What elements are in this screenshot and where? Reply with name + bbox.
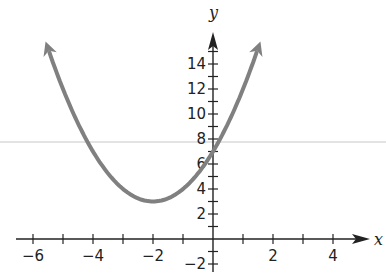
parabola-curve	[44, 41, 263, 201]
x-tick-label: −2	[142, 247, 164, 265]
x-tick-label: −6	[22, 247, 44, 265]
y-tick-label: 8	[196, 130, 206, 148]
y-tick-label: 2	[196, 205, 206, 223]
y-tick-label: 14	[187, 55, 206, 73]
y-tick-label: 4	[196, 180, 206, 198]
plot-area: −6−4−224−22468101214 x y	[0, 0, 386, 273]
y-tick-label: 12	[187, 80, 206, 98]
x-tick-label: 4	[328, 247, 338, 265]
y-tick-label: −2	[184, 255, 206, 273]
y-tick-label: 10	[187, 105, 206, 123]
y-axis-label: y	[208, 3, 219, 22]
tick-marks	[33, 52, 333, 265]
parabola-path	[50, 53, 257, 202]
parabola-graph: −6−4−224−22468101214 x y	[0, 0, 386, 273]
x-axis-label: x	[374, 230, 383, 249]
x-tick-label: 2	[268, 247, 278, 265]
x-tick-label: −4	[82, 247, 104, 265]
tick-labels: −6−4−224−22468101214	[22, 55, 338, 273]
